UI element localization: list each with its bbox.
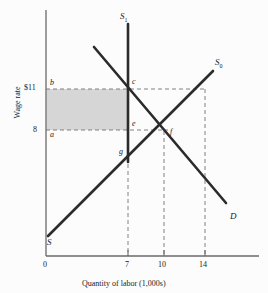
x-tick-label-10: 10 <box>158 261 166 269</box>
point-label-e: e <box>132 120 136 128</box>
curve-label-S: S <box>47 238 52 247</box>
curve-label-S0: S0 <box>215 58 223 69</box>
point-label-c: c <box>132 78 136 86</box>
y-axis-title: Wage rate <box>13 74 22 132</box>
supply-demand-figure: Wage rate $11 8 0 7 10 14 Quantity of la… <box>0 0 268 293</box>
curve-label-D: D <box>230 212 237 221</box>
y-tick-label-11: $11 <box>24 84 36 92</box>
y-tick-label-8: 8 <box>33 126 37 134</box>
curve-label-S1: S1 <box>120 12 128 23</box>
curve-label-S0-sub: 0 <box>220 63 223 69</box>
chart-canvas <box>0 0 268 293</box>
x-axis-title: Quantity of labor (1,000s) <box>82 280 166 288</box>
point-label-f: f <box>170 128 172 136</box>
point-label-a: a <box>50 131 54 139</box>
wage-gain-shaded-rectangle <box>47 89 129 130</box>
point-label-g: g <box>119 148 123 156</box>
x-tick-label-14: 14 <box>199 261 207 269</box>
x-tick-label-7: 7 <box>125 261 129 269</box>
x-tick-label-0: 0 <box>43 261 47 269</box>
curve-label-S1-sub: 1 <box>125 17 128 23</box>
point-label-b: b <box>50 79 54 87</box>
